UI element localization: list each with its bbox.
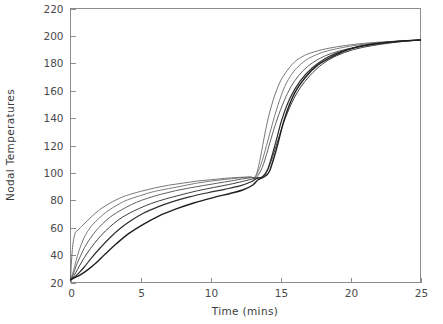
y-tick-label: 140 <box>43 112 63 124</box>
y-tick-label: 80 <box>50 194 63 206</box>
series-line <box>71 40 421 280</box>
plot-frame <box>71 9 421 283</box>
series-line <box>71 40 421 280</box>
y-tick-label: 100 <box>43 167 63 179</box>
y-tick-label: 160 <box>43 85 63 97</box>
x-tick-label: 15 <box>275 287 288 299</box>
y-tick-label: 180 <box>43 57 63 69</box>
series-line <box>71 40 421 280</box>
series-line <box>71 40 421 280</box>
y-tick-label: 120 <box>43 140 63 152</box>
y-tick-label: 200 <box>43 30 63 42</box>
y-axis-tick-labels: 20406080100120140160180200220 <box>43 3 63 289</box>
x-tick-label: 20 <box>345 287 358 299</box>
y-axis-title: Nodal Temperatures <box>4 89 16 201</box>
data-series-group <box>71 40 421 280</box>
x-axis-tick-labels: 0510152025 <box>68 287 428 299</box>
y-tick-label: 220 <box>43 3 63 15</box>
chart-figure: 20406080100120140160180200220 0510152025… <box>0 0 443 324</box>
y-tick-label: 40 <box>50 249 63 261</box>
y-tick-label: 20 <box>50 277 63 289</box>
nodal-temperatures-line-chart: 20406080100120140160180200220 0510152025… <box>0 0 443 324</box>
y-tick-label: 60 <box>50 222 63 234</box>
x-axis-tick-marks <box>72 278 422 283</box>
x-axis-title: Time (mins) <box>211 305 278 317</box>
x-tick-label: 0 <box>68 287 75 299</box>
x-tick-label: 5 <box>138 287 145 299</box>
x-tick-label: 25 <box>415 287 428 299</box>
series-line <box>71 40 421 280</box>
x-tick-label: 10 <box>205 287 218 299</box>
series-line <box>71 40 421 280</box>
